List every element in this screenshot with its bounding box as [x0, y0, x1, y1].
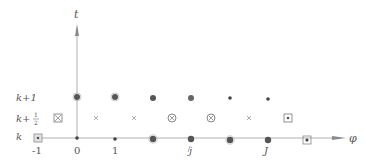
boxed-dot-icon: [303, 136, 311, 144]
phi-axis-arrow-icon: [332, 136, 346, 140]
boxed-cross-icon: [54, 114, 62, 122]
large-dot-icon: [227, 137, 233, 143]
phi-axis-label: φ: [349, 132, 357, 145]
row-label-half-numerator: 1: [34, 111, 38, 118]
row-label-k-plus-half: k+: [16, 113, 30, 124]
large-dot-icon: [150, 95, 156, 101]
col-label-minus-1: -1: [32, 145, 42, 156]
axes: t φ: [38, 8, 357, 145]
circled-cross-icon: [168, 114, 176, 122]
t-axis-label: t: [74, 8, 79, 21]
column-labels: -1 0 1 j J: [32, 145, 269, 156]
row-k-plus-half-markers: [54, 114, 292, 122]
cross-icon: [247, 116, 251, 120]
cross-icon: [132, 116, 136, 120]
row-label-half-denominator: 2: [34, 119, 38, 126]
boxed-dot-icon: [284, 114, 292, 122]
large-dot-icon: [150, 136, 156, 142]
row-label-k-plus-1: k+1: [16, 92, 37, 103]
small-dot-icon: [113, 137, 117, 141]
large-dot-icon: [188, 136, 194, 142]
row-k-markers: [34, 134, 311, 144]
col-label-1: 1: [112, 145, 118, 156]
large-dot-icon: [74, 94, 80, 100]
row-k-plus-1-markers: [73, 93, 270, 101]
boxed-dot-icon: [34, 134, 42, 142]
t-axis-arrow-icon: [75, 24, 79, 36]
small-dot-icon: [75, 136, 79, 140]
small-dot-icon: [228, 96, 232, 100]
small-dot-icon: [266, 97, 270, 101]
col-label-J: J: [262, 145, 269, 156]
cross-icon: [94, 116, 98, 120]
circled-cross-icon: [207, 114, 215, 122]
row-label-k: k: [16, 131, 22, 142]
large-dot-icon: [188, 95, 194, 101]
large-dot-icon: [112, 94, 118, 100]
large-dot-icon: [265, 137, 271, 143]
stencil-grid-diagram: t φ k+1 k+ 1 2 k -1 0 1 j J: [0, 0, 366, 164]
col-label-0: 0: [74, 145, 80, 156]
